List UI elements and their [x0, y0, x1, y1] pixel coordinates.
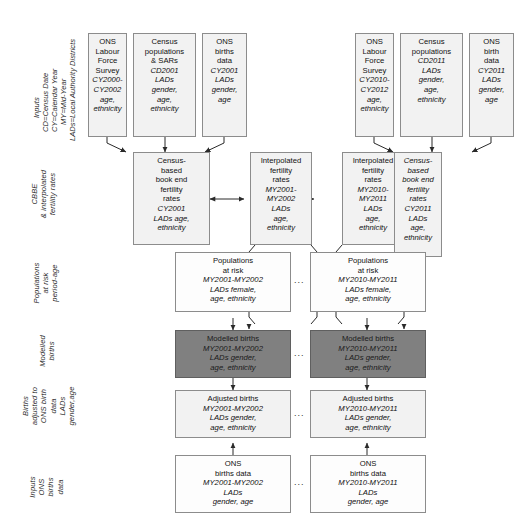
box-text-line: Survey — [89, 66, 126, 76]
box-text-line: MY2001-MY2002 — [176, 404, 290, 414]
populations-ellipsis: ... — [294, 275, 305, 285]
box-text-line: age — [470, 95, 513, 105]
box-text-line: birth — [470, 47, 513, 57]
input-box-ons-lfs-2000[interactable]: ONSLabourForceSurveyCY2000-CY2002age,eth… — [88, 33, 127, 137]
box-text-line: CY2011 — [395, 204, 441, 214]
box-text-line: based — [395, 166, 441, 176]
box-text-line: MY2001-MY2002 — [176, 478, 290, 488]
box-text-line: CY2010- — [356, 75, 393, 85]
legend-line-lads: LADs=Local Authority Districts — [68, 39, 77, 141]
cbbe-box-2001[interactable]: Census-basedbook endfertilityratesCY2001… — [133, 152, 210, 245]
box-text-line: LADs — [134, 75, 195, 85]
box-text-line: gender, — [203, 85, 246, 95]
box-text-line: rates — [395, 194, 441, 204]
box-text-line: CY2011 — [470, 66, 513, 76]
box-text-line: CD2011 — [401, 56, 462, 66]
populations-box-2010[interactable]: Populationsat riskMY2010-MY2011LADs fema… — [310, 252, 426, 312]
input-box-ons-births-2011[interactable]: ONSbirthdataCY2011LADsgender,age — [469, 33, 514, 137]
box-text-line: births — [203, 47, 246, 57]
box-text-line: ONS — [356, 37, 393, 47]
flowchart-canvas: Inputs CD=Census Date CY=Calendar Year M… — [0, 0, 516, 526]
box-text-line: data — [470, 56, 513, 66]
box-text-line: MY2001-MY2002 — [176, 275, 290, 285]
box-text-line: gender, age — [311, 497, 425, 507]
box-text-line: fertility — [395, 185, 441, 195]
adjusted-births-box-2010[interactable]: Adjusted birthsMY2010-MY2011LADs gender,… — [310, 390, 426, 438]
box-text-line: gender, — [134, 85, 195, 95]
box-text-line: Modelled births — [311, 334, 425, 344]
adjusted-births-ellipsis: ... — [294, 408, 305, 418]
box-text-line: CY2001 — [203, 66, 246, 76]
box-text-line: ethnicity — [356, 104, 393, 114]
box-text-line: MY2010-MY2011 — [311, 478, 425, 488]
box-text-line: Modelled births — [176, 334, 290, 344]
box-text-line: rates — [251, 175, 311, 185]
box-text-line: LADs — [401, 66, 462, 76]
populations-box-2001[interactable]: Populationsat riskMY2001-MY2002LADs fema… — [175, 252, 291, 312]
box-text-line: ethnicity — [395, 233, 441, 243]
box-text-line: ethnicity — [401, 95, 462, 105]
box-text-line: LADs female, — [311, 285, 425, 295]
box-text-line: LADs — [251, 204, 311, 214]
box-text-line: MY2001- — [251, 185, 311, 195]
box-text-line: age, ethnicity — [176, 294, 290, 304]
box-text-line: LADs gender, — [176, 413, 290, 423]
row-label-cbbe: CBBE & interpolated fertility rates — [30, 148, 58, 240]
legend-line-cd: CD=Census Date — [41, 73, 50, 132]
box-text-line: age, ethnicity — [311, 363, 425, 373]
box-text-line: CD2001 — [134, 66, 195, 76]
input-box-census-pops-2011[interactable]: CensuspopulationsCD2011LADsgender,age,et… — [400, 33, 463, 137]
box-text-line: book end — [395, 175, 441, 185]
box-text-line: LADs — [470, 75, 513, 85]
box-text-line: births data — [311, 469, 425, 479]
box-text-line: gender, — [470, 85, 513, 95]
box-text-line: Force — [356, 56, 393, 66]
box-text-line: LADs female, — [176, 285, 290, 295]
ons-births-box-2001[interactable]: ONSbirths dataMY2001-MY2002LADsgender, a… — [175, 455, 291, 513]
box-text-line: age, — [89, 95, 126, 105]
box-text-line: Populations — [176, 256, 290, 266]
box-text-line: CY2002 — [89, 85, 126, 95]
box-text-line: ONS — [89, 37, 126, 47]
box-text-line: LADs — [395, 214, 441, 224]
box-text-line: Census — [401, 37, 462, 47]
box-text-line: Labour — [356, 47, 393, 57]
cbbe-box-2011[interactable]: Census-basedbook endfertilityratesCY2011… — [394, 152, 442, 257]
modelled-births-box-2001[interactable]: Modelled birthsMY2001-MY2002LADs gender,… — [175, 330, 291, 378]
adjusted-births-box-2001[interactable]: Adjusted birthsMY2001-MY2002LADs gender,… — [175, 390, 291, 438]
box-text-line: at risk — [311, 266, 425, 276]
box-text-line: fertility — [251, 166, 311, 176]
box-text-line: age, — [401, 85, 462, 95]
box-text-line: Census- — [134, 156, 209, 166]
box-text-line: CY2012 — [356, 85, 393, 95]
box-text-line: Census — [134, 37, 195, 47]
box-text-line: age, — [395, 223, 441, 233]
box-text-line: age, — [356, 95, 393, 105]
box-text-line: age, — [251, 214, 311, 224]
box-text-line: CY2001 — [134, 204, 209, 214]
input-box-ons-births-2001[interactable]: ONSbirthsdataCY2001LADsgender,age — [202, 33, 247, 137]
box-text-line: & SARs — [134, 56, 195, 66]
box-text-line: rates — [134, 194, 209, 204]
box-text-line: gender, age — [176, 497, 290, 507]
box-text-line: LADs gender, — [311, 353, 425, 363]
box-text-line: Adjusted births — [311, 394, 425, 404]
box-text-line: age, — [134, 95, 195, 105]
box-text-line: LADs — [176, 488, 290, 498]
legend-line-my: MY=Mid-Year — [59, 79, 68, 125]
box-text-line: Populations — [311, 256, 425, 266]
box-text-line: ethnicity — [89, 104, 126, 114]
box-text-line: Interpolated — [251, 156, 311, 166]
box-text-line: MY2010-MY2011 — [311, 404, 425, 414]
interpolated-box-2001[interactable]: InterpolatedfertilityratesMY2001-MY2002L… — [250, 152, 312, 245]
box-text-line: ONS — [176, 459, 290, 469]
box-text-line: LADs — [203, 75, 246, 85]
box-text-line: data — [203, 56, 246, 66]
box-text-line: births data — [176, 469, 290, 479]
modelled-births-box-2010[interactable]: Modelled birthsMY2010-MY2011LADs gender,… — [310, 330, 426, 378]
ons-births-box-2010[interactable]: ONSbirths dataMY2010-MY2011LADsgender, a… — [310, 455, 426, 513]
input-box-ons-lfs-2010[interactable]: ONSLabourForceSurveyCY2010-CY2012age,eth… — [355, 33, 394, 137]
input-box-census-pops-2001[interactable]: Censuspopulations& SARsCD2001LADsgender,… — [133, 33, 196, 137]
box-text-line: LADs age, — [134, 214, 209, 224]
box-text-line: ONS — [470, 37, 513, 47]
